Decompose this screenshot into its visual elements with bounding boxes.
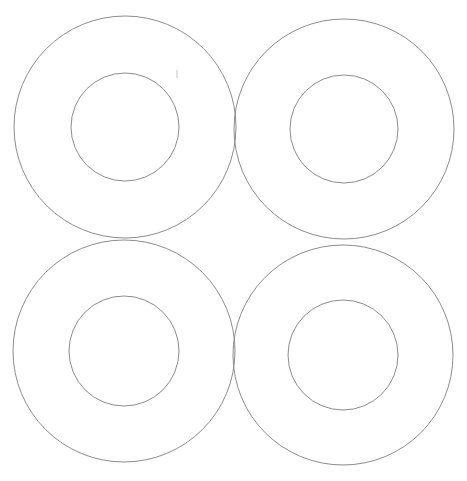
ring-diagram (0, 0, 467, 481)
inner-circle (71, 73, 179, 181)
outer-circle (13, 240, 235, 462)
ring-bottom-left (13, 240, 235, 462)
inner-circle (290, 75, 398, 183)
outer-circle (234, 19, 454, 239)
ring-bottom-right (233, 245, 453, 465)
outer-circle (14, 16, 236, 238)
inner-circle (69, 296, 179, 406)
outer-circle (233, 245, 453, 465)
faint-mark (176, 70, 178, 78)
inner-circle (288, 300, 398, 410)
ring-top-right (234, 19, 454, 239)
ring-top-left (14, 16, 236, 238)
